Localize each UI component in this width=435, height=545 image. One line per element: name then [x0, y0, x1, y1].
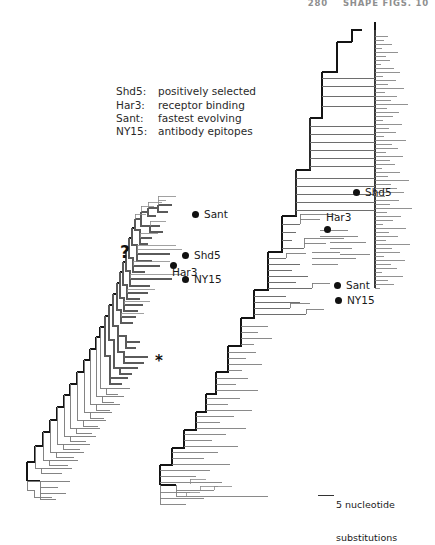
key-code-shd5: Shd5:	[116, 85, 158, 98]
key-desc-ny15: antibody epitopes	[158, 125, 253, 138]
right-tree-label-har3: Har3	[326, 212, 351, 223]
scale-bar-line1: 5 nucleotide	[336, 499, 397, 510]
left-tree-label-ny15: NY15	[194, 274, 222, 285]
key-desc-shd5: positively selected	[158, 85, 256, 98]
key-code-sant: Sant:	[116, 112, 158, 125]
right-tree-dot-sant	[334, 282, 341, 289]
left-phylogenetic-tree	[27, 196, 182, 499]
key-code-har3: Har3:	[116, 99, 158, 112]
left-tree-dot-sant	[192, 211, 199, 218]
right-tree-dot-har3	[324, 226, 331, 233]
left-tree-dot-ny15	[182, 276, 189, 283]
marker-key-legend: Shd5:positively selected Har3:receptor b…	[96, 72, 256, 125]
left-tree-label-shd5: Shd5	[194, 250, 221, 261]
question-mark-annotation: ?	[120, 244, 130, 261]
right-tree-dot-ny15	[335, 297, 342, 304]
left-tree-label-sant: Sant	[204, 209, 228, 220]
key-row: Shd5:positively selected	[96, 72, 256, 85]
key-desc-har3: receptor binding	[158, 99, 245, 112]
running-head: 280 SHAPE FIGS. 10	[308, 0, 429, 8]
left-tree-dot-shd5	[182, 252, 189, 259]
scale-bar-line2: substitutions	[336, 532, 397, 543]
scale-bar-caption: 5 nucleotide substitutions	[336, 477, 397, 545]
right-tree-label-shd5: Shd5	[365, 187, 392, 198]
right-tree-label-sant: Sant	[346, 280, 370, 291]
right-tree-dot-shd5	[353, 189, 360, 196]
key-code-ny15: NY15:	[116, 125, 158, 138]
asterisk-annotation: *	[155, 354, 163, 369]
scale-bar-line-icon	[318, 495, 334, 496]
key-desc-sant: fastest evolving	[158, 112, 242, 125]
right-tree-label-ny15: NY15	[347, 295, 375, 306]
